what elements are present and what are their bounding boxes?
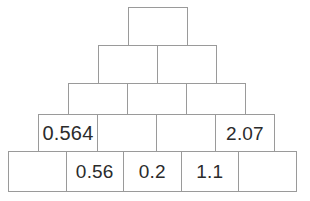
- pyramid-cell-r3c1[interactable]: [68, 83, 128, 115]
- pyramid-cell-r5c3[interactable]: 0.2: [123, 151, 182, 192]
- pyramid-row-5: 0.56 0.2 1.1: [8, 151, 297, 192]
- cell-value: 0.564: [42, 123, 93, 143]
- pyramid-row-1: [128, 7, 188, 46]
- cell-value: 1.1: [196, 162, 223, 181]
- pyramid-cell-r4c4[interactable]: 2.07: [215, 114, 275, 152]
- pyramid-cell-r5c1[interactable]: [8, 151, 67, 192]
- pyramid-row-2: [98, 45, 217, 84]
- cell-value: 0.2: [139, 162, 166, 181]
- pyramid-cell-r5c4[interactable]: 1.1: [181, 151, 240, 192]
- pyramid-cell-r5c5[interactable]: [238, 151, 297, 192]
- pyramid-cell-r2c2[interactable]: [157, 45, 217, 84]
- pyramid-cell-r4c3[interactable]: [156, 114, 216, 152]
- cell-value: 2.07: [226, 124, 264, 143]
- pyramid-cell-r1c1[interactable]: [128, 7, 188, 46]
- pyramid-cell-r3c3[interactable]: [186, 83, 246, 115]
- number-pyramid-diagram: 0.564 2.07 0.56 0.2 1.1: [0, 0, 310, 201]
- pyramid-cell-r5c2[interactable]: 0.56: [66, 151, 125, 192]
- pyramid-row-3: [68, 83, 246, 115]
- pyramid-cell-r4c2[interactable]: [97, 114, 157, 152]
- pyramid-row-4: 0.564 2.07: [38, 114, 275, 152]
- pyramid-cell-r2c1[interactable]: [98, 45, 158, 84]
- cell-value: 0.56: [76, 162, 114, 181]
- pyramid-cell-r3c2[interactable]: [127, 83, 187, 115]
- pyramid-cell-r4c1[interactable]: 0.564: [38, 114, 98, 152]
